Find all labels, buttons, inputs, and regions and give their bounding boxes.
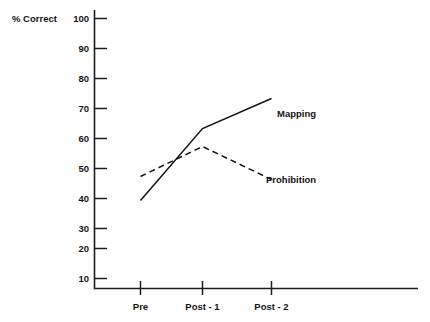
x-tick-label-pre: Pre [133, 301, 148, 312]
series-label-mapping: Mapping [277, 108, 316, 119]
y-tick-label-70: 70 [78, 103, 89, 114]
chart-axes [95, 10, 419, 289]
y-tick-label-40: 40 [78, 193, 89, 204]
y-axis-ticks [95, 19, 108, 279]
y-tick-label-80: 80 [78, 73, 89, 84]
series-label-prohibition: Prohibition [266, 174, 316, 185]
y-axis-title: % Correct [12, 13, 58, 24]
y-axis-tick-labels: 100 90 80 70 60 50 40 30 20 10 [73, 13, 89, 284]
x-tick-label-post2: Post - 2 [254, 301, 288, 312]
chart-canvas: 100 90 80 70 60 50 40 30 20 10 % Correct… [0, 0, 430, 322]
series-line-prohibition [141, 147, 272, 180]
y-tick-label-10: 10 [78, 273, 89, 284]
y-tick-label-20: 20 [78, 243, 89, 254]
y-tick-label-60: 60 [78, 133, 89, 144]
series-line-mapping [141, 99, 272, 201]
x-tick-label-post1: Post - 1 [185, 301, 220, 312]
y-tick-label-50: 50 [78, 163, 89, 174]
y-tick-label-90: 90 [78, 43, 89, 54]
y-tick-label-100: 100 [73, 13, 89, 24]
y-tick-label-30: 30 [78, 223, 89, 234]
line-chart: 100 90 80 70 60 50 40 30 20 10 % Correct… [0, 0, 430, 322]
x-axis-tick-labels: Pre Post - 1 Post - 2 [133, 301, 289, 312]
